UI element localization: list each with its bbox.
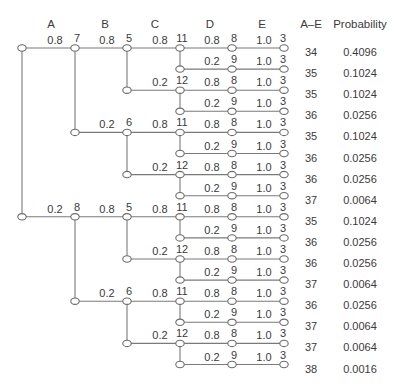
- node-value-label: 3: [280, 243, 286, 255]
- node-value-label: 3: [280, 222, 286, 234]
- tree-node: [280, 319, 288, 325]
- header-stage-b: B: [101, 18, 109, 30]
- node-value-label: 3: [280, 53, 286, 65]
- result-probability: 0.0064: [343, 278, 377, 290]
- node-value-label: 9: [231, 138, 237, 150]
- tree-node: [228, 171, 236, 177]
- branch-junction-node: [176, 319, 184, 325]
- node-value-label: 9: [231, 264, 237, 276]
- result-total: 34: [305, 46, 317, 58]
- node-value-label: 8: [231, 201, 237, 213]
- tree-node: [280, 361, 288, 367]
- edge-probability-label: 0.2: [152, 329, 167, 341]
- tree-node: [176, 340, 184, 346]
- tree-node: [176, 171, 184, 177]
- header-probability: Probability: [333, 18, 387, 30]
- tree-node: [228, 214, 236, 220]
- tree-node: [176, 256, 184, 262]
- tree-node: [71, 214, 79, 220]
- header-stage-a: A: [47, 18, 55, 30]
- branch-junction-node: [176, 66, 184, 72]
- edge-probability-label: 0.2: [152, 245, 167, 257]
- node-value-label: 9: [231, 222, 237, 234]
- node-value-label: 8: [231, 285, 237, 297]
- tree-node: [176, 87, 184, 93]
- result-probability: 0.0256: [343, 152, 377, 164]
- node-value-label: 12: [176, 243, 188, 255]
- header-total: A–E: [300, 18, 322, 30]
- results-table: 340.4096350.1024350.1024360.0256350.1024…: [305, 46, 377, 375]
- node-value-label: 3: [280, 306, 286, 318]
- result-total: 35: [305, 215, 317, 227]
- result-total: 36: [305, 299, 317, 311]
- tree-node: [71, 45, 79, 51]
- result-probability: 0.0016: [343, 363, 377, 375]
- result-probability: 0.0064: [343, 341, 377, 353]
- edge-probability-label: 0.8: [204, 203, 219, 215]
- edge-probability-label: 0.2: [99, 287, 114, 299]
- node-value-label: 3: [280, 74, 286, 86]
- result-total: 37: [305, 341, 317, 353]
- tree-node: [228, 45, 236, 51]
- node-value-label: 8: [231, 116, 237, 128]
- node-value-label: 11: [176, 32, 187, 44]
- node-value-label: 3: [280, 180, 286, 192]
- edge-probability-label: 1.0: [256, 329, 271, 341]
- tree-node: [228, 66, 236, 72]
- edge-probability-label: 1.0: [256, 76, 271, 88]
- edge-probability-label: 1.0: [256, 287, 271, 299]
- result-probability: 0.0256: [343, 109, 377, 121]
- result-total: 36: [305, 236, 317, 248]
- node-value-label: 3: [280, 349, 286, 361]
- tree-node: [228, 277, 236, 283]
- tree-node: [228, 319, 236, 325]
- edge-probability-label: 1.0: [256, 97, 271, 109]
- tree-node: [280, 193, 288, 199]
- result-probability: 0.0256: [343, 173, 377, 185]
- branch-junction-node: [176, 361, 184, 367]
- tree-node: [228, 256, 236, 262]
- edge-probability-label: 0.2: [152, 161, 167, 173]
- column-headers: A B C D E A–E Probability: [47, 18, 387, 30]
- edge-probability-label: 0.8: [204, 76, 219, 88]
- branch-junction-node: [71, 129, 79, 135]
- branch-junction-node: [71, 298, 79, 304]
- result-probability: 0.1024: [343, 215, 377, 227]
- edge-probability-label: 0.2: [47, 203, 62, 215]
- edge-probability-label: 0.8: [99, 34, 114, 46]
- tree-node: [280, 256, 288, 262]
- branch-junction-node: [123, 256, 131, 262]
- tree-node: [228, 87, 236, 93]
- tree-node: [280, 150, 288, 156]
- result-probability: 0.0256: [343, 236, 377, 248]
- branch-junction-node: [123, 87, 131, 93]
- result-probability: 0.0064: [343, 194, 377, 206]
- edge-probability-label: 0.8: [152, 118, 167, 130]
- node-value-label: 3: [280, 95, 286, 107]
- edge-probability-label: 0.2: [204, 224, 219, 236]
- header-stage-c: C: [151, 18, 159, 30]
- tree-node: [280, 45, 288, 51]
- node-value-label: 9: [231, 349, 237, 361]
- node-value-label: 8: [231, 32, 237, 44]
- tree-labels: 0.870.850.8110.881.030.291.030.2120.881.…: [47, 32, 286, 363]
- edge-probability-label: 0.8: [204, 161, 219, 173]
- tree-node: [280, 235, 288, 241]
- header-stage-e: E: [258, 18, 266, 30]
- node-value-label: 3: [280, 201, 286, 213]
- node-value-label: 12: [176, 159, 188, 171]
- tree-node: [228, 150, 236, 156]
- node-value-label: 12: [176, 327, 188, 339]
- result-total: 37: [305, 320, 317, 332]
- tree-node: [123, 129, 131, 135]
- node-value-label: 12: [176, 74, 188, 86]
- result-total: 35: [305, 130, 317, 142]
- tree-node: [123, 45, 131, 51]
- tree-node: [228, 108, 236, 114]
- edge-probability-label: 0.2: [204, 97, 219, 109]
- result-total: 37: [305, 194, 317, 206]
- tree-node: [280, 66, 288, 72]
- node-value-label: 8: [231, 327, 237, 339]
- tree-node: [228, 340, 236, 346]
- result-total: 38: [305, 363, 317, 375]
